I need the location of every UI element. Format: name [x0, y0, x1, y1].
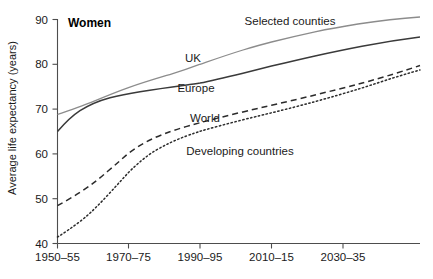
series-label-uk: UK [185, 52, 201, 64]
y-axis-ticks [53, 20, 58, 244]
chart-container: 40 50 60 70 80 90 1950–55 1970–75 1990–9… [0, 0, 433, 279]
x-tick-label-1970: 1970–75 [106, 251, 151, 263]
panel-label: Women [68, 16, 111, 30]
series-label-europe: Europe [177, 82, 214, 94]
x-tick-label-2010: 2010–15 [249, 251, 294, 263]
y-tick-label-90: 90 [35, 14, 48, 26]
x-tick-label-1990: 1990–95 [178, 251, 223, 263]
x-axis-ticks [58, 244, 344, 249]
x-tick-label-1950: 1950–55 [35, 251, 80, 263]
y-tick-label-40: 40 [35, 238, 48, 250]
y-tick-label-80: 80 [35, 58, 48, 70]
life-expectancy-line-chart: 40 50 60 70 80 90 1950–55 1970–75 1990–9… [0, 0, 433, 279]
y-tick-label-50: 50 [35, 193, 48, 205]
y-tick-label-70: 70 [35, 103, 48, 115]
y-tick-label-60: 60 [35, 148, 48, 160]
x-tick-label-2030: 2030–35 [321, 251, 366, 263]
chart-title: Selected counties [245, 15, 336, 27]
y-axis-title: Average life expectancy (years) [6, 41, 18, 195]
series-line-uk [58, 17, 421, 115]
series-label-developing: Developing countries [186, 145, 294, 157]
series-label-world: World [190, 112, 220, 124]
